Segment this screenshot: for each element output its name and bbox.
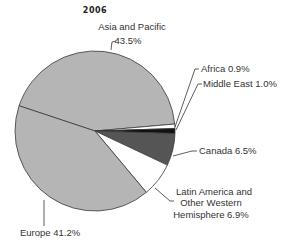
label-asia-value: 43.5% [115,35,142,46]
chart-title: 2006 [83,6,107,15]
pie-slices [15,51,175,211]
label-middle-east: Middle East 1.0% [203,78,277,89]
leader-latin-america [155,188,174,201]
leader-middle-east [176,84,202,130]
pie-chart: 2006 Asia and Pacific 43.5% Africa 0.9% … [0,0,288,243]
leader-canada [173,151,197,156]
label-latin-america-line1: Latin America and [176,186,252,197]
label-africa: Africa 0.9% [201,63,250,74]
label-asia-name: Asia and Pacific [98,21,166,32]
label-europe: Europe 41.2% [20,227,81,238]
label-canada: Canada 6.5% [199,145,257,156]
leader-africa [175,69,199,127]
label-latin-america-line2: Other Western [180,197,242,208]
label-latin-america-line3: Hemisphere 6.9% [173,209,249,220]
